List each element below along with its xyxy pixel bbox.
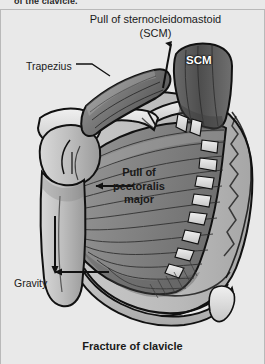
figure-caption: Fracture of clavicle <box>0 340 265 352</box>
sternocleidomastoid <box>174 43 232 136</box>
humerus-arm <box>41 172 86 306</box>
clavicle-fracture-figure: of the clavicle. <box>0 0 265 364</box>
anatomical-illustration <box>0 0 265 364</box>
trapezius-leader-line <box>76 64 110 76</box>
